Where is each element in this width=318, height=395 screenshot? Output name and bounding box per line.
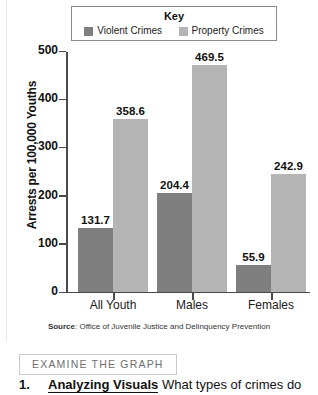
y-tick-0 <box>59 292 66 294</box>
question-1: 1. Analyzing Visuals What types of crime… <box>19 376 311 393</box>
legend-label-property-crimes: Property Crimes <box>192 25 264 37</box>
bar-all-youth-property <box>113 119 148 292</box>
legend-swatch-property-crimes <box>179 27 188 36</box>
bar-males-violent <box>157 193 192 292</box>
examine-the-graph-heading: EXAMINE THE GRAPH <box>19 354 177 375</box>
bar-value-males-property: 469.5 <box>185 51 234 63</box>
x-axis-line <box>66 292 310 294</box>
question-1-body: Analyzing Visuals What types of crimes d… <box>48 377 301 392</box>
y-axis-title: Arrests per 100,000 Youths <box>25 55 39 255</box>
y-tick-label-0: 0 <box>12 284 58 298</box>
bar-all-youth-violent <box>78 228 113 292</box>
y-tick-label-400: 400 <box>12 91 58 105</box>
chart-source-prefix: Source <box>48 322 75 331</box>
x-axis-label-males: Males <box>147 298 237 312</box>
legend-title: Key <box>72 9 276 23</box>
y-tick-100 <box>59 243 66 245</box>
question-1-text: What types of crimes do <box>158 377 301 392</box>
bar-females-property <box>271 174 306 291</box>
y-tick-label-300: 300 <box>12 139 58 153</box>
y-tick-label-100: 100 <box>12 236 58 250</box>
chart-source: Source: Office of Juvenile Justice and D… <box>0 322 318 331</box>
bar-males-property <box>192 65 227 291</box>
y-tick-label-500: 500 <box>12 43 58 57</box>
legend-swatch-violent-crimes <box>84 27 93 36</box>
legend-entry-property-crimes: Property Crimes <box>179 25 264 37</box>
legend-label-violent-crimes: Violent Crimes <box>97 25 162 37</box>
y-axis-line <box>66 52 68 293</box>
legend-entry-violent-crimes: Violent Crimes <box>84 25 162 37</box>
x-axis-label-all-youth: All Youth <box>68 298 158 312</box>
question-1-number: 1. <box>19 376 30 393</box>
x-axis-label-females: Females <box>226 298 316 312</box>
bar-value-females-property: 242.9 <box>264 160 313 172</box>
y-tick-label-200: 200 <box>12 188 58 202</box>
chart-source-text: : Office of Juvenile Justice and Delinqu… <box>75 322 270 331</box>
legend-entries: Violent Crimes Property Crimes <box>72 25 276 37</box>
bar-chart: Arrests per 100,000 Youths 0 100 200 300… <box>0 44 318 306</box>
y-tick-200 <box>59 195 66 197</box>
chart-legend: Key Violent Crimes Property Crimes <box>71 6 277 41</box>
plot-area: 0 100 200 300 400 500 131.7 358.6 204.4 … <box>66 52 310 293</box>
y-tick-400 <box>59 99 66 101</box>
bar-value-all-youth-property: 358.6 <box>106 105 155 117</box>
bar-females-violent <box>236 265 271 292</box>
y-tick-300 <box>59 147 66 149</box>
y-tick-500 <box>59 51 66 53</box>
question-1-lead: Analyzing Visuals <box>48 377 158 393</box>
